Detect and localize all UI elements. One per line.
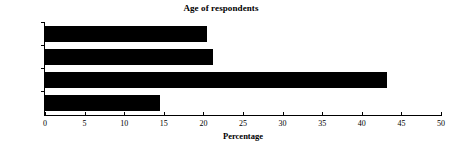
- x-tick-label: 45: [388, 119, 414, 128]
- x-tick-label: 30: [270, 119, 296, 128]
- bar-31-40: [45, 72, 387, 88]
- x-tick-label: 5: [72, 119, 98, 128]
- x-tick-mark: [441, 112, 442, 116]
- x-tick-label: 15: [151, 119, 177, 128]
- x-tick-label: 35: [309, 119, 335, 128]
- x-tick-mark: [362, 112, 363, 116]
- x-axis-title: Percentage: [45, 131, 441, 141]
- x-tick-mark: [164, 112, 165, 116]
- x-tick-mark: [85, 112, 86, 116]
- plot-area: [45, 23, 441, 115]
- y-tick-mark: [41, 22, 45, 23]
- x-tick-mark: [45, 112, 46, 116]
- x-tick-mark: [283, 112, 284, 116]
- x-tick-label: 0: [32, 119, 58, 128]
- x-tick-label: 20: [190, 119, 216, 128]
- x-tick-mark: [124, 112, 125, 116]
- x-tick-mark: [322, 112, 323, 116]
- x-tick-label: 50: [428, 119, 450, 128]
- bar-41-50: [45, 49, 213, 65]
- y-tick-mark: [41, 68, 45, 69]
- x-tick-mark: [401, 112, 402, 116]
- y-tick-mark: [41, 45, 45, 46]
- y-tick-mark: [41, 91, 45, 92]
- x-tick-mark: [203, 112, 204, 116]
- x-tick-label: 10: [111, 119, 137, 128]
- x-tick-mark: [243, 112, 244, 116]
- chart-title: Age of respondents: [0, 3, 442, 13]
- x-tick-label: 25: [230, 119, 256, 128]
- bar-51-60: [45, 26, 207, 42]
- bar-20-30: [45, 95, 160, 111]
- x-tick-label: 40: [349, 119, 375, 128]
